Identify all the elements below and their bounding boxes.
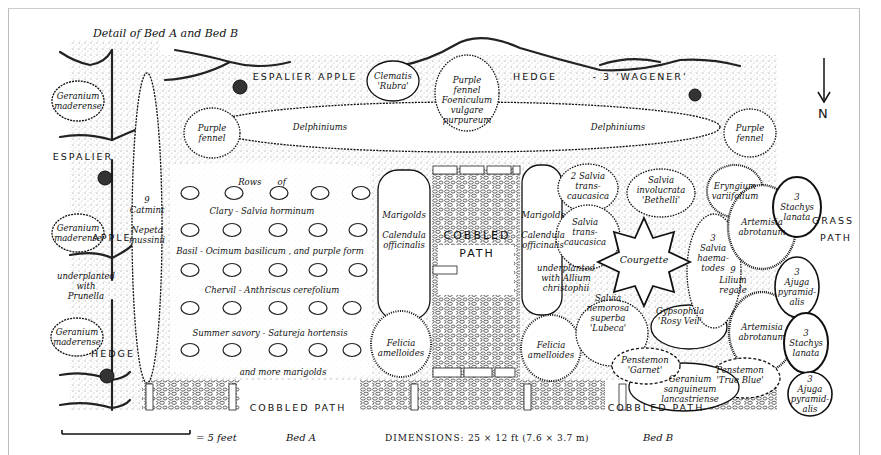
- plant-purple-fennel-right: Purple fennel: [736, 123, 764, 143]
- plant-artemisia-1: Artemisia abrotanum: [738, 217, 785, 237]
- plant-purple-fennel-left: Purple fennel: [198, 123, 226, 143]
- plant-delphiniums-left: Delphiniums: [293, 122, 347, 132]
- scale-label: = 5 feet: [196, 432, 237, 443]
- plant-prunella: underplanted with Prunella: [57, 271, 115, 301]
- plant-geranium-1: Geranium maderense: [54, 91, 102, 111]
- plant-delphiniums-right: Delphiniums: [591, 122, 645, 132]
- plant-penstemon-true-blue: Penstemon 'True Blue': [716, 365, 763, 385]
- dimensions-prefix: DIMENSIONS:: [385, 433, 465, 443]
- plant-salvia-involucrata: Salvia involucrata 'Bethelli': [637, 175, 686, 205]
- path-label-cobbled-center-2: PATH: [459, 247, 495, 260]
- plant-geranium-3: Geranium maderense: [53, 327, 101, 347]
- herb-row-clary: Clary - Salvia horminum: [210, 206, 315, 216]
- plant-gypsophila: Gypsophila 'Rosy Veil': [656, 306, 704, 326]
- plant-salvia-transcaucasica-1: 2 Salvia trans- caucasica: [567, 171, 609, 201]
- herb-row-chervil: Chervil - Anthriscus cerefolium: [205, 285, 340, 295]
- bed-b-label: Bed B: [643, 432, 673, 443]
- plant-geranium-2: Geranium maderense: [54, 223, 102, 243]
- plant-salvia-transcaucasica-2: Salvia trans- caucasica: [564, 217, 606, 247]
- bed-a-label: Bed A: [286, 432, 316, 443]
- plant-penstemon-garnet: Penstemon 'Garnet': [621, 355, 668, 375]
- plant-geranium-sanguineum: Geranium sanguineum lancastriense: [661, 374, 719, 404]
- hedge-label-left-1: ESPALIER: [53, 151, 113, 162]
- plant-purple-fennel-center: Purple fennel Foeniculum vulgare purpure…: [442, 75, 492, 125]
- plant-ajuga-2: 3 Ajuga pyramid- alis: [791, 374, 829, 414]
- path-label-grass-2: PATH: [820, 232, 852, 243]
- plant-stachys-1: 3 Stachys lanata: [780, 192, 814, 222]
- plant-allium: underplanted with Allium christophii: [537, 263, 595, 293]
- hedge-label-top-3: - 3 'WAGENER': [592, 71, 687, 82]
- herb-row-savory: Summer savory - Satureja hortensis: [192, 328, 347, 338]
- plant-courgette: Courgette: [620, 255, 669, 265]
- plant-eryngium: Eryngium variifolium: [712, 181, 759, 201]
- hedge-label-top-1: ESPALIER APPLE: [253, 71, 358, 82]
- herb-row-basil: Basil - Ocimum basilicum , and purple fo…: [176, 246, 364, 256]
- plant-clematis: Clematis 'Rubra': [374, 71, 412, 91]
- hedge-label-top-2: HEDGE: [513, 71, 557, 82]
- dimensions-value: 25 × 12 ft (7.6 × 3.7 m): [468, 433, 589, 443]
- dimensions: DIMENSIONS: 25 × 12 ft (7.6 × 3.7 m): [385, 433, 589, 443]
- plant-felicia-right: Felicia amelloides: [528, 340, 574, 360]
- plant-marigolds-right: Marigolds Calendula officinalis: [521, 210, 565, 250]
- plant-artemisia-2: Artemisia abrotanum: [738, 322, 785, 342]
- herb-rows-of: Rows of: [238, 177, 286, 187]
- north-arrow-icon: [818, 58, 830, 102]
- plant-stachys-2: 3 Stachys lanata: [789, 328, 823, 358]
- path-label-cobbled-left: COBBLED PATH: [250, 402, 347, 413]
- plant-catmint: 9 Catmint Nepeta mussinii: [129, 195, 165, 245]
- herb-row-more-marigolds: and more marigolds: [240, 367, 327, 377]
- path-label-grass-1: GRASS: [812, 215, 854, 226]
- plant-ajuga-1: 3 Ajuga pyramid- alis: [778, 267, 816, 307]
- plant-marigolds-left: Marigolds Calendula officinalis: [382, 210, 426, 250]
- north-label: N: [818, 106, 828, 121]
- plant-felicia-left: Felicia amelloides: [378, 338, 424, 358]
- plant-lilium: 9 Lilium regale: [719, 265, 746, 295]
- plant-salvia-nemorosa: Salvia nemorosa superba 'Lubeca': [587, 293, 629, 333]
- scale-bar: [62, 430, 190, 434]
- hedge-label-left-3: HEDGE: [91, 348, 135, 359]
- path-label-cobbled-center-1: COBBLED: [444, 229, 511, 242]
